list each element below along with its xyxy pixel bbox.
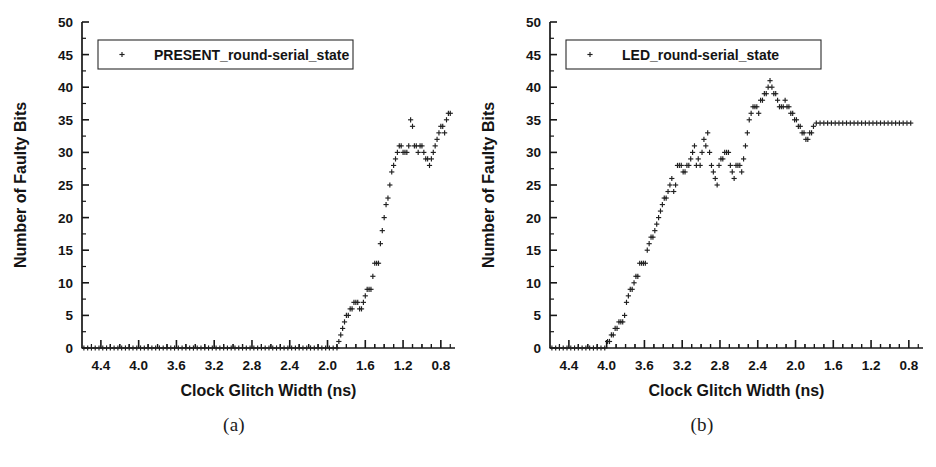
legend-label: PRESENT_round-serial_state [154, 47, 349, 63]
data-point-marker [739, 169, 744, 174]
y-tick-label: 5 [533, 308, 541, 323]
x-tick-label: 2.0 [318, 358, 337, 373]
data-point-marker [361, 300, 366, 305]
x-tick-label: 4.0 [129, 358, 148, 373]
data-point-marker [380, 228, 385, 233]
data-point-marker [711, 169, 716, 174]
data-point-marker [665, 189, 670, 194]
y-tick-label: 35 [526, 113, 542, 128]
y-tick-label: 30 [58, 145, 73, 160]
data-point-marker [442, 130, 447, 135]
data-point-marker [699, 150, 704, 155]
data-point-marker [429, 156, 434, 161]
data-point-marker [747, 117, 752, 122]
data-point-marker [783, 98, 788, 103]
y-tick-label: 50 [526, 15, 541, 30]
data-point-marker [660, 202, 665, 207]
x-tick-label: 2.0 [786, 358, 805, 373]
data-point-marker [716, 163, 721, 168]
data-point-marker [340, 326, 345, 331]
y-tick-label: 15 [58, 243, 74, 258]
y-tick-label: 25 [58, 178, 74, 193]
y-tick-label: 40 [526, 80, 541, 95]
data-point-marker [395, 150, 400, 155]
data-point-marker [410, 124, 415, 129]
data-point-marker [631, 280, 636, 285]
data-point-marker [658, 208, 663, 213]
data-point-marker [383, 202, 388, 207]
data-point-marker [908, 120, 913, 125]
legend: LED_round-serial_state [566, 40, 821, 69]
y-tick-label: 40 [58, 80, 73, 95]
y-tick-label: 50 [58, 15, 73, 30]
y-tick-label: 25 [526, 178, 542, 193]
data-point-marker [624, 300, 629, 305]
data-point-marker [406, 143, 411, 148]
data-point-marker [427, 163, 432, 168]
legend-label: LED_round-serial_state [622, 47, 779, 63]
data-point-marker [696, 156, 701, 161]
x-tick-label: 1.6 [824, 358, 843, 373]
x-tick-label: 3.2 [205, 358, 224, 373]
data-point-marker [382, 215, 387, 220]
y-tick-label: 45 [526, 48, 542, 63]
x-tick-label: 2.4 [748, 358, 767, 373]
data-point-marker [645, 248, 650, 253]
data-point-marker [387, 182, 392, 187]
x-tick-label: 1.6 [356, 358, 375, 373]
chart-panel-b: 051015202530354045504.44.03.63.22.82.42.… [468, 0, 936, 467]
x-tick-label: 3.2 [673, 358, 692, 373]
y-tick-label: 35 [58, 113, 74, 128]
data-point-marker [622, 313, 627, 318]
data-point-marker [421, 150, 426, 155]
x-tick-label: 3.6 [635, 358, 654, 373]
x-tick-label: 3.6 [167, 358, 186, 373]
data-point-marker [756, 111, 761, 116]
x-tick-label: 1.2 [862, 358, 881, 373]
data-point-marker [690, 150, 695, 155]
data-point-marker [338, 332, 343, 337]
x-tick-label: 2.4 [280, 358, 299, 373]
y-tick-label: 5 [65, 308, 73, 323]
y-axis-title: Number of Faulty Bits [480, 102, 497, 268]
y-tick-label: 10 [526, 276, 541, 291]
data-point-marker [669, 176, 674, 181]
y-tick-label: 10 [58, 276, 73, 291]
data-point-marker [811, 124, 816, 129]
data-point-marker [363, 293, 368, 298]
x-tick-label: 0.8 [899, 358, 918, 373]
data-point-marker [370, 274, 375, 279]
data-point-marker [647, 241, 652, 246]
y-tick-label: 20 [526, 211, 541, 226]
y-tick-label: 0 [65, 341, 73, 356]
data-point-marker [705, 130, 710, 135]
data-point-marker [389, 169, 394, 174]
data-point-marker [732, 176, 737, 181]
data-point-marker [336, 339, 341, 344]
subcaption-a: (a) [0, 414, 468, 436]
y-tick-label: 15 [526, 243, 542, 258]
y-axis-title: Number of Faulty Bits [12, 102, 29, 268]
data-point-marker [626, 293, 631, 298]
data-point-marker [444, 117, 449, 122]
data-point-marker [654, 222, 659, 227]
data-point-marker [741, 156, 746, 161]
data-point-marker [730, 169, 735, 174]
data-point-marker [434, 137, 439, 142]
data-point-marker [775, 98, 780, 103]
x-axis-title: Clock Glitch Width (ns) [649, 382, 825, 399]
figure-container: 051015202530354045504.44.03.63.22.82.42.… [0, 0, 936, 467]
data-point-marker [688, 156, 693, 161]
data-point-marker [767, 78, 772, 83]
data-point-marker [436, 130, 441, 135]
data-point-marker [334, 345, 339, 350]
data-series-group [81, 111, 453, 351]
data-point-marker [701, 137, 706, 142]
y-tick-label: 30 [526, 145, 541, 160]
data-point-marker [378, 241, 383, 246]
x-tick-label: 2.8 [243, 358, 262, 373]
data-point-marker [703, 143, 708, 148]
data-point-marker [391, 163, 396, 168]
data-point-marker [715, 182, 720, 187]
data-point-marker [671, 189, 676, 194]
